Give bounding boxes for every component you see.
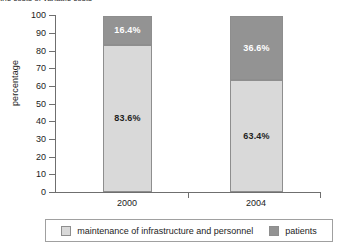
y-axis-tick bbox=[49, 33, 56, 34]
y-axis-tick bbox=[49, 157, 56, 158]
y-axis-label: 30 bbox=[12, 135, 46, 144]
bar-segment-value: 83.6% bbox=[114, 114, 141, 123]
chart-legend: maintenance of infrastructure and person… bbox=[45, 219, 333, 242]
x-axis-tick bbox=[188, 192, 189, 198]
y-axis-label: 100 bbox=[12, 11, 46, 20]
y-axis-tick bbox=[49, 139, 56, 140]
y-axis-tick bbox=[49, 192, 56, 193]
y-axis-tick bbox=[49, 51, 56, 52]
x-axis-category-label: 2000 bbox=[97, 198, 157, 209]
y-axis-label: 80 bbox=[12, 47, 46, 56]
legend-swatch-icon bbox=[61, 226, 71, 236]
legend-swatch-icon bbox=[269, 226, 279, 236]
bar-segment-patients[interactable]: 36.6% bbox=[230, 16, 283, 80]
bar-segment-maintenance[interactable]: 83.6% bbox=[103, 45, 152, 192]
y-axis-tick bbox=[49, 121, 56, 122]
legend-label: patients bbox=[285, 226, 317, 236]
y-axis-label: 20 bbox=[12, 153, 46, 162]
bar-segment-value: 16.4% bbox=[114, 26, 141, 35]
y-axis-tick bbox=[49, 68, 56, 69]
bar-2004[interactable]: 36.6% 63.4% bbox=[230, 16, 283, 192]
bar-segment-patients[interactable]: 16.4% bbox=[103, 16, 152, 45]
y-axis-label: 50 bbox=[12, 100, 46, 109]
y-axis-tick bbox=[49, 174, 56, 175]
y-axis-tick bbox=[49, 104, 56, 105]
y-axis-label: 90 bbox=[12, 29, 46, 38]
bar-2000[interactable]: 16.4% 83.6% bbox=[103, 16, 152, 192]
legend-entry-patients[interactable]: patients bbox=[269, 226, 317, 236]
y-axis-label: 60 bbox=[12, 82, 46, 91]
y-axis-tick bbox=[49, 86, 56, 87]
stacked-bar-chart: percentage 100 90 80 70 60 50 40 30 20 1… bbox=[0, 0, 338, 212]
x-axis-tick bbox=[320, 192, 321, 198]
y-axis-label: 10 bbox=[12, 170, 46, 179]
legend-entry-maintenance[interactable]: maintenance of infrastructure and person… bbox=[61, 226, 253, 236]
bar-segment-value: 36.6% bbox=[243, 44, 270, 53]
y-axis-label: 70 bbox=[12, 64, 46, 73]
bar-segment-value: 63.4% bbox=[243, 132, 270, 141]
y-axis-label: 0 bbox=[12, 188, 46, 197]
y-axis-tick bbox=[49, 15, 56, 16]
y-axis-label: 40 bbox=[12, 117, 46, 126]
x-axis-category-label: 2004 bbox=[226, 198, 286, 209]
bar-segment-maintenance[interactable]: 63.4% bbox=[230, 80, 283, 192]
legend-label: maintenance of infrastructure and person… bbox=[77, 226, 253, 236]
